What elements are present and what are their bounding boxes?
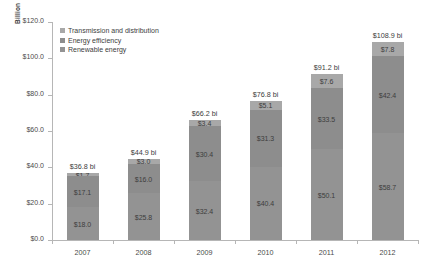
legend-item-renewable-energy: Renewable energy: [60, 46, 159, 53]
bar-segment[interactable]: $7.6: [311, 74, 343, 88]
x-tick-mark: [52, 240, 53, 244]
bar-segment[interactable]: $17.1: [67, 176, 99, 207]
segment-value-label: $50.1: [311, 191, 343, 198]
segment-value-label: $5.1: [250, 102, 282, 109]
segment-value-label: $58.7: [372, 183, 404, 190]
y-axis-line: [52, 22, 53, 240]
segment-value-label: $31.3: [250, 135, 282, 142]
legend-swatch-icon: [60, 28, 65, 33]
x-tick-label-2007: 2007: [53, 248, 113, 257]
bar-segment[interactable]: $16.0: [128, 164, 160, 193]
segment-value-label: $42.4: [372, 91, 404, 98]
bar-2012[interactable]: $7.8$42.4$58.7$108.9 bi: [372, 42, 404, 240]
bar-total-label: $66.2 bi: [175, 109, 235, 118]
legend-swatch-icon: [60, 38, 65, 43]
y-tick-mark: [48, 58, 52, 59]
bar-segment[interactable]: $50.1: [311, 149, 343, 240]
x-tick-label-2009: 2009: [175, 248, 235, 257]
y-tick-mark: [48, 22, 52, 23]
y-tick-label: $80.0: [26, 90, 44, 97]
y-axis-title: Billion: [14, 3, 21, 24]
bar-total-label: $108.9 bi: [358, 31, 418, 40]
x-tick-label-2012: 2012: [358, 248, 418, 257]
bar-2008[interactable]: $3.0$16.0$25.8$44.9 bi: [128, 159, 160, 240]
y-tick-label: $100.0: [23, 53, 44, 60]
segment-value-label: $7.8: [372, 46, 404, 53]
segment-value-label: $30.4: [189, 150, 221, 157]
x-tick-mark: [357, 240, 358, 244]
bar-total-label: $36.8 bi: [53, 162, 113, 171]
bar-segment[interactable]: $31.3: [250, 110, 282, 167]
segment-value-label: $25.8: [128, 213, 160, 220]
bar-2009[interactable]: $3.4$30.4$32.4$66.2 bi: [189, 120, 221, 240]
bar-segment[interactable]: $58.7: [372, 133, 404, 240]
stacked-bar-chart: Billion $0.0$20.0$40.0$60.0$80.0$100.0$1…: [0, 0, 434, 272]
segment-value-label: $33.5: [311, 115, 343, 122]
bar-total-label: $76.8 bi: [236, 90, 296, 99]
segment-value-label: $18.0: [67, 220, 99, 227]
y-tick-mark: [48, 131, 52, 132]
y-tick-mark: [48, 167, 52, 168]
y-tick-label: $120.0: [23, 17, 44, 24]
y-tick-mark: [48, 204, 52, 205]
bar-segment[interactable]: $42.4: [372, 56, 404, 133]
chart-legend: Transmission and distribution Energy eff…: [60, 27, 159, 56]
y-tick-mark: [48, 95, 52, 96]
legend-label: Transmission and distribution: [68, 27, 159, 34]
x-tick-mark: [418, 240, 419, 244]
bar-segment[interactable]: $40.4: [250, 167, 282, 240]
legend-item-energy-efficiency: Energy efficiency: [60, 37, 159, 44]
segment-value-label: $32.4: [189, 207, 221, 214]
x-tick-mark: [296, 240, 297, 244]
legend-label: Energy efficiency: [68, 37, 121, 44]
x-tick-mark: [235, 240, 236, 244]
x-tick-mark: [113, 240, 114, 244]
segment-value-label: $16.0: [128, 175, 160, 182]
y-tick-label: $0.0: [30, 235, 44, 242]
bar-segment[interactable]: $25.8: [128, 193, 160, 240]
bar-2007[interactable]: $1.7$17.1$18.0$36.8 bi: [67, 173, 99, 240]
x-tick-label-2010: 2010: [236, 248, 296, 257]
y-tick-label: $40.0: [26, 162, 44, 169]
bar-total-label: $91.2 bi: [297, 63, 357, 72]
segment-value-label: $7.6: [311, 78, 343, 85]
bar-segment[interactable]: $7.8: [372, 42, 404, 56]
bar-segment[interactable]: $32.4: [189, 181, 221, 240]
legend-swatch-icon: [60, 47, 65, 52]
x-tick-label-2011: 2011: [297, 248, 357, 257]
segment-value-label: $40.4: [250, 200, 282, 207]
legend-label: Renewable energy: [68, 46, 126, 53]
y-tick-label: $20.0: [26, 199, 44, 206]
y-tick-label: $60.0: [26, 126, 44, 133]
x-tick-label-2008: 2008: [114, 248, 174, 257]
bar-segment[interactable]: $30.4: [189, 126, 221, 181]
legend-item-transmission-and-distribution: Transmission and distribution: [60, 27, 159, 34]
bar-total-label: $44.9 bi: [114, 148, 174, 157]
segment-value-label: $17.1: [67, 188, 99, 195]
x-tick-mark: [174, 240, 175, 244]
bar-2011[interactable]: $7.6$33.5$50.1$91.2 bi: [311, 74, 343, 240]
bar-2010[interactable]: $5.1$31.3$40.4$76.8 bi: [250, 101, 282, 241]
bar-segment[interactable]: $18.0: [67, 207, 99, 240]
bar-segment[interactable]: $33.5: [311, 88, 343, 149]
bar-segment[interactable]: $5.1: [250, 101, 282, 110]
